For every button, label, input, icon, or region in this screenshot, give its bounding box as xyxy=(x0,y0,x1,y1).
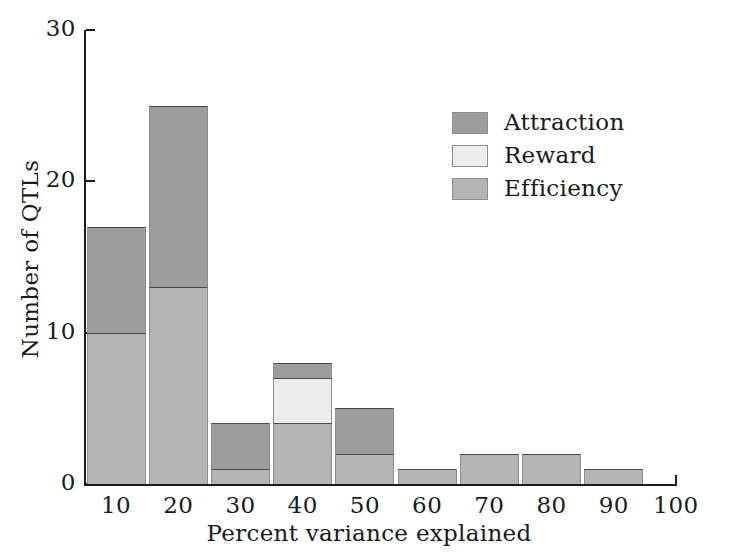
y-tick-label-30: 30 xyxy=(30,17,76,40)
chart-figure: 0102030 102030405060708090100 Percent va… xyxy=(0,0,738,555)
bar-70 xyxy=(460,30,519,484)
bar-segment-40-efficiency xyxy=(273,423,332,484)
legend-swatch-reward xyxy=(452,145,488,167)
bar-segment-60-efficiency xyxy=(398,469,457,484)
y-tick-label-0: 0 xyxy=(30,471,76,494)
bar-segment-50-efficiency xyxy=(335,454,394,484)
x-tick-label-60: 60 xyxy=(397,492,457,518)
bar-10 xyxy=(87,30,146,484)
bar-40 xyxy=(273,30,332,484)
bar-80 xyxy=(522,30,581,484)
bar-segment-30-attraction xyxy=(211,423,270,468)
legend-label-efficiency: Efficiency xyxy=(504,177,623,200)
x-tick-label-30: 30 xyxy=(211,492,271,518)
bar-30 xyxy=(211,30,270,484)
bar-segment-30-efficiency xyxy=(211,469,270,484)
x-tick-label-40: 40 xyxy=(273,492,333,518)
bar-segment-40-attraction xyxy=(273,363,332,378)
bar-segment-40-reward xyxy=(273,378,332,423)
legend-item-attraction: Attraction xyxy=(452,108,625,137)
bar-segment-20-efficiency xyxy=(149,287,208,484)
x-axis-title: Percent variance explained xyxy=(0,520,738,546)
x-tick-label-20: 20 xyxy=(148,492,208,518)
x-tick-label-80: 80 xyxy=(522,492,582,518)
x-tick-100 xyxy=(675,475,677,484)
bar-50 xyxy=(335,30,394,484)
bar-segment-80-efficiency xyxy=(522,454,581,484)
legend-swatch-attraction xyxy=(452,112,488,134)
legend-item-reward: Reward xyxy=(452,141,625,170)
x-tick-label-10: 10 xyxy=(86,492,146,518)
x-tick-label-100: 100 xyxy=(646,492,706,518)
bar-segment-50-attraction xyxy=(335,408,394,453)
legend-label-reward: Reward xyxy=(504,144,596,167)
bar-segment-10-efficiency xyxy=(87,333,146,484)
bar-60 xyxy=(398,30,457,484)
bar-segment-10-attraction xyxy=(87,227,146,333)
legend-item-efficiency: Efficiency xyxy=(452,174,625,203)
x-tick-label-90: 90 xyxy=(584,492,644,518)
bar-90 xyxy=(584,30,643,484)
bar-segment-90-efficiency xyxy=(584,469,643,484)
x-tick-label-50: 50 xyxy=(335,492,395,518)
bar-segment-20-attraction xyxy=(149,106,208,288)
legend-swatch-efficiency xyxy=(452,178,488,200)
x-tick-label-70: 70 xyxy=(459,492,519,518)
bar-segment-70-efficiency xyxy=(460,454,519,484)
x-axis-line xyxy=(84,484,677,486)
chart-legend: AttractionRewardEfficiency xyxy=(452,108,625,207)
bar-20 xyxy=(149,30,208,484)
y-axis-title: Number of QTLs xyxy=(17,49,43,469)
legend-label-attraction: Attraction xyxy=(504,111,625,134)
